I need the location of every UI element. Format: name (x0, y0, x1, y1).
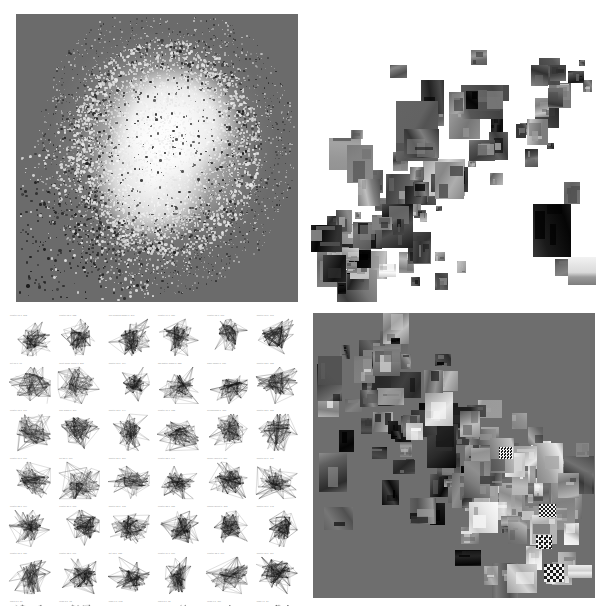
small-multiple-cell[interactable]: cluster 36 n=113 (255, 552, 304, 600)
small-multiple-title: row7 f n=84 (257, 600, 269, 603)
thumbnail-feature (320, 242, 341, 246)
small-multiple-cell[interactable]: cluster 09 n=174 (107, 362, 156, 410)
thumbnail-feature (459, 555, 470, 557)
small-multiple-cell[interactable]: knn graph n=201 (57, 409, 106, 457)
small-multiple-cell[interactable]: spring layout n=218 (205, 505, 254, 553)
small-multiple-title: cluster 30 n=142 (257, 505, 274, 508)
small-multiple-cell-partial[interactable]: row7 a n=87 (8, 600, 57, 606)
small-multiple-cell[interactable]: hierarchical n=233 (205, 409, 254, 457)
small-multiple-cell[interactable]: cluster 35 n=160 (205, 552, 254, 600)
thumbnail-feature (439, 184, 448, 198)
small-multiple-cell[interactable]: cluster 28 n=155 (156, 505, 205, 553)
image-thumbnail (319, 453, 347, 492)
small-multiple-cell[interactable]: adj matrix graph n=228 (156, 362, 205, 410)
small-multiple-cell[interactable]: cluster 21 n=209 (107, 457, 156, 505)
thumbnail-feature (463, 128, 468, 137)
image-thumbnail (583, 80, 592, 92)
small-multiple-cell[interactable]: cluster 34 n=199 (156, 552, 205, 600)
graph-layout-scribble (107, 413, 150, 452)
small-multiple-cell[interactable]: cluster 15 n=144 (107, 409, 156, 457)
thumbnail-feature (415, 171, 423, 179)
small-multiple-cell[interactable]: cluster 06 n=163 (255, 314, 304, 362)
image-thumbnail (379, 264, 396, 277)
small-multiple-cell[interactable]: cluster 30 n=142 (255, 505, 304, 553)
small-multiple-cell-partial[interactable]: row7 b n=95 (57, 600, 106, 606)
image-thumbnail (355, 212, 361, 219)
thumbnail-feature (398, 234, 402, 245)
thumbnail-feature (478, 90, 488, 102)
thumbnail-feature (491, 125, 494, 128)
panel-thumbnail-scatter-white (311, 14, 601, 302)
small-multiple-cell[interactable]: cluster 04 n=150 (156, 314, 205, 362)
small-multiple-cell-partial[interactable]: row7 d n=78 (156, 600, 205, 606)
small-multiple-cell[interactable]: cluster 25 n=104 (8, 505, 57, 553)
image-thumbnail-texture (544, 564, 564, 582)
small-multiple-cell[interactable]: cluster 31 n=186 (8, 552, 57, 600)
small-multiple-cell[interactable]: cluster 26 n=193 (57, 505, 106, 553)
image-thumbnail (469, 502, 498, 533)
small-multiple-title: cluster 28 n=155 (158, 505, 175, 508)
small-multiple-cell[interactable]: cluster 02 n=188 (57, 314, 106, 362)
thumbnail-feature (349, 269, 354, 270)
thumbnail-feature (472, 92, 477, 99)
small-multiple-cell[interactable]: base model n=139 (205, 362, 254, 410)
small-multiple-cell[interactable]: cluster 16 n=122 (156, 409, 205, 457)
image-thumbnail (400, 442, 412, 457)
image-thumbnail (361, 418, 372, 434)
small-multiple-cell[interactable]: cluster 19 n=176 (8, 457, 57, 505)
small-multiple-title: hierarchical n=233 (207, 409, 226, 412)
small-multiple-cell-partial[interactable]: row7 e n=110 (205, 600, 254, 606)
graph-layout-scribble (57, 509, 100, 548)
thumbnail-feature (513, 528, 518, 531)
image-thumbnail (382, 480, 399, 505)
small-multiple-cell[interactable]: cluster 01 n=212 (8, 314, 57, 362)
thumbnail-feature (462, 264, 463, 268)
thumbnail-feature (407, 364, 409, 366)
small-multiple-cell[interactable]: cluster 12 n=182 (255, 362, 304, 410)
image-thumbnail (324, 507, 353, 530)
small-multiple-cell[interactable]: cluster 24 n=131 (255, 457, 304, 505)
small-multiple-cell[interactable]: set 07 n=91 (8, 362, 57, 410)
image-thumbnail (424, 370, 443, 393)
small-multiple-cell[interactable]: cluster 13 n=166 (8, 409, 57, 457)
thumbnail-feature (548, 143, 551, 145)
thumbnail-feature (545, 456, 559, 468)
small-multiple-cell[interactable]: set 33 n=128 (107, 552, 156, 600)
small-multiple-cell-partial[interactable]: row7 c n=102 (107, 600, 156, 606)
small-multiple-cell[interactable]: cluster 18 n=158 (255, 409, 304, 457)
graph-layout-scribble (8, 556, 51, 595)
image-thumbnail (413, 241, 430, 263)
small-multiple-cell[interactable]: cluster 22 n=147 (156, 457, 205, 505)
small-multiple-cell-partial[interactable]: row7 f n=84 (255, 600, 304, 606)
graph-layout-scribble (205, 604, 248, 606)
image-thumbnail (393, 219, 404, 235)
small-multiple-title: spring layout n=218 (207, 505, 227, 508)
graph-layout-scribble (255, 318, 298, 357)
thumbnail-feature (391, 66, 400, 69)
thumbnail-feature (440, 281, 444, 289)
graph-layout-scribble (107, 509, 150, 548)
small-multiple-cell[interactable]: cluster 05 n=197 (205, 314, 254, 362)
image-thumbnail (508, 522, 527, 544)
thumbnail-feature (512, 415, 515, 421)
small-multiple-title: cluster 21 n=209 (109, 457, 126, 460)
thumbnail-feature (361, 372, 364, 381)
image-thumbnail (469, 140, 495, 161)
thumbnail-feature (362, 149, 371, 159)
thumbnail-feature (580, 60, 584, 61)
small-multiple-cell[interactable]: cluster 27 n=168 (107, 505, 156, 553)
small-multiple-cell[interactable]: fine grained model n=240 (107, 314, 156, 362)
thumbnail-feature (487, 91, 503, 108)
thumbnail-feature (568, 190, 576, 203)
small-multiple-title: cluster 31 n=186 (10, 552, 27, 555)
small-multiple-cell[interactable]: multi scale group n=205 (57, 362, 106, 410)
thumbnail-feature (342, 354, 348, 356)
image-thumbnail (425, 392, 453, 426)
small-multiple-cell[interactable]: cluster 32 n=171 (57, 552, 106, 600)
small-multiple-title: row7 e n=110 (207, 600, 221, 603)
thumbnail-feature (392, 341, 396, 342)
small-multiple-cell[interactable]: set 20 n=119 (57, 457, 106, 505)
small-multiple-cell[interactable]: dense layout n=251 (205, 457, 254, 505)
image-thumbnail (564, 182, 580, 204)
thumbnail-feature (358, 187, 362, 195)
